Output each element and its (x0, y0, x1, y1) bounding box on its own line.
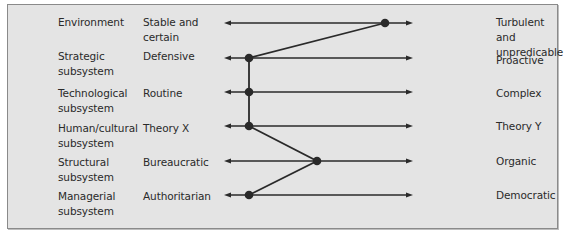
position-dot (245, 191, 254, 200)
arrow-left-icon (224, 90, 231, 95)
arrow-right-icon (406, 90, 413, 95)
position-dot (381, 19, 390, 28)
position-dot (245, 54, 254, 63)
position-dot (313, 157, 322, 166)
arrow-right-icon (406, 21, 413, 26)
arrow-right-icon (406, 56, 413, 61)
arrow-right-icon (406, 124, 413, 129)
scale-lines (0, 0, 565, 236)
arrow-left-icon (224, 159, 231, 164)
arrow-left-icon (224, 193, 231, 198)
arrow-left-icon (224, 21, 231, 26)
position-dot (245, 88, 254, 97)
arrow-left-icon (224, 124, 231, 129)
arrow-left-icon (224, 56, 231, 61)
arrow-right-icon (406, 193, 413, 198)
position-dot (245, 122, 254, 131)
arrow-right-icon (406, 159, 413, 164)
profile-line (249, 23, 385, 195)
